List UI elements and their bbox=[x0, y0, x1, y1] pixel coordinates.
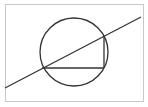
diagram-canvas bbox=[0, 0, 148, 107]
geometry-diagram bbox=[0, 0, 148, 107]
diagram-frame bbox=[6, 5, 144, 102]
secant-line bbox=[5, 17, 141, 88]
